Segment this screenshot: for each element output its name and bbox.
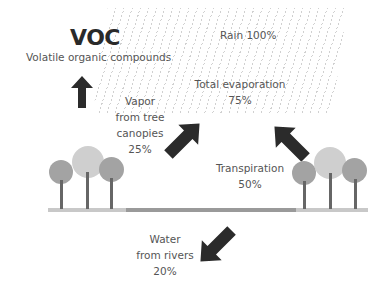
river — [126, 208, 296, 212]
arrow-down-left-icon — [192, 222, 240, 270]
tree-trunk — [60, 180, 63, 209]
tree-trunk — [110, 178, 113, 209]
tree-trunk — [354, 179, 357, 209]
arrow-up-icon — [70, 74, 94, 110]
ground-right — [296, 208, 368, 212]
total-evaporation-label: Total evaporation 75% — [190, 76, 290, 108]
subtitle: Volatile organic compounds — [26, 51, 171, 63]
tree-trunk — [303, 181, 306, 209]
page-title: VOC — [70, 25, 120, 50]
arrow-up-right-icon — [160, 115, 208, 163]
arrow-up-left-icon — [266, 118, 314, 166]
rain-label: Rain 100% — [220, 27, 276, 43]
tree-trunk — [86, 172, 89, 209]
tree-trunk — [329, 173, 332, 209]
water-label: Water from rivers 20% — [130, 231, 200, 279]
